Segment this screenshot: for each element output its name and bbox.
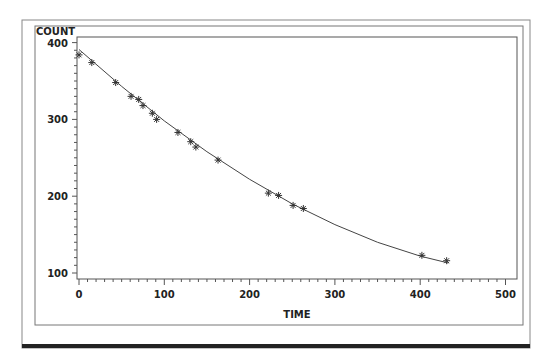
- x-tick-label: 100: [154, 289, 175, 300]
- chart-canvas: 100200300400 0100200300400500 COUNT TIME: [0, 0, 552, 361]
- data-point-asterisk: [187, 138, 194, 145]
- x-tick-label: 0: [76, 289, 83, 300]
- data-point-asterisk: [112, 79, 119, 86]
- data-point-asterisk: [215, 157, 222, 164]
- data-point-asterisk: [174, 129, 181, 136]
- x-tick-label: 200: [239, 289, 260, 300]
- data-point-asterisk: [418, 252, 425, 259]
- y-axis: 100200300400: [47, 38, 77, 279]
- data-point-asterisk: [88, 59, 95, 66]
- y-tick-label: 100: [47, 268, 68, 279]
- data-point-asterisk: [139, 102, 146, 109]
- y-tick-label: 200: [47, 191, 68, 202]
- y-tick-label: 400: [47, 38, 68, 49]
- data-points: [76, 51, 451, 264]
- data-point-asterisk: [192, 144, 199, 151]
- x-axis: 0100200300400500: [76, 279, 516, 300]
- x-axis-label: TIME: [283, 309, 310, 320]
- data-point-asterisk: [135, 96, 142, 103]
- outer-frame: [22, 20, 530, 348]
- plot-area: [77, 37, 517, 279]
- x-tick-label: 300: [324, 289, 345, 300]
- inner-frame: [35, 26, 523, 325]
- data-point-asterisk: [443, 257, 450, 264]
- y-axis-label: COUNT: [36, 26, 75, 37]
- data-point-asterisk: [76, 51, 83, 58]
- x-tick-label: 500: [495, 289, 516, 300]
- data-point-asterisk: [300, 205, 307, 212]
- fitted-curve: [79, 50, 448, 264]
- data-point-asterisk: [153, 116, 160, 123]
- data-point-asterisk: [149, 110, 156, 117]
- data-point-asterisk: [275, 192, 282, 199]
- data-point-asterisk: [265, 190, 272, 197]
- y-tick-label: 300: [47, 114, 68, 125]
- bottom-bar: [22, 344, 530, 348]
- data-point-asterisk: [128, 93, 135, 100]
- x-tick-label: 400: [410, 289, 431, 300]
